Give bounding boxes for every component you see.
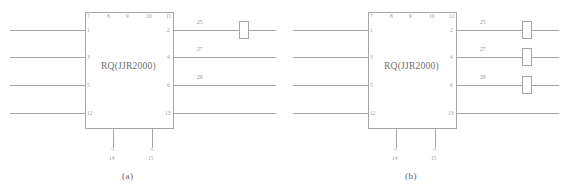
wire-label-29: 29 — [480, 75, 486, 81]
figure-root: 7 8 9 10 11 1 3 5 12 2 4 6 13 25 27 29 R… — [0, 0, 565, 191]
schematic-panel-b: 7 8 9 10 11 1 3 5 12 2 4 6 13 25 27 29 R… — [283, 0, 565, 191]
left-pin-3: 3 — [87, 55, 90, 60]
contact-box-2 — [522, 21, 531, 38]
left-pin-12: 12 — [370, 111, 375, 116]
left-pin-12: 12 — [87, 111, 92, 116]
wire-label-27: 27 — [480, 47, 486, 53]
top-pin-7: 7 — [370, 14, 373, 19]
bottom-pin-14: 14 — [109, 156, 114, 161]
bottom-mark-15: % — [433, 148, 437, 152]
wire-label-25: 25 — [480, 20, 486, 26]
contact-box-2 — [239, 21, 248, 38]
wire-label-27: 27 — [197, 47, 203, 53]
top-pin-8: 8 — [107, 14, 110, 19]
top-pin-10: 10 — [429, 14, 434, 19]
contact-box-4 — [522, 48, 531, 65]
right-pin-4: 4 — [450, 55, 453, 60]
device-block-label: RQ(JJR2000) — [101, 61, 156, 71]
wire-label-29: 29 — [197, 75, 203, 81]
right-pin-2: 2 — [450, 28, 453, 33]
panel-caption-b: (b) — [405, 172, 417, 181]
left-pin-3: 3 — [370, 55, 373, 60]
right-pin-2: 2 — [167, 28, 170, 33]
top-pin-10: 10 — [146, 14, 151, 19]
right-pin-13: 13 — [448, 111, 453, 116]
device-block-label: RQ(JJR2000) — [384, 61, 439, 71]
left-pin-1: 1 — [370, 28, 373, 33]
panel-b-drawing — [283, 0, 565, 191]
top-pin-11: 11 — [449, 14, 454, 19]
bottom-pin-14: 14 — [392, 156, 397, 161]
left-pin-5: 5 — [87, 83, 90, 88]
left-pin-1: 1 — [87, 28, 90, 33]
top-pin-9: 9 — [409, 14, 412, 19]
right-pin-6: 6 — [450, 83, 453, 88]
top-pin-11: 11 — [166, 14, 171, 19]
bottom-pin-15: 15 — [148, 156, 153, 161]
top-pin-8: 8 — [390, 14, 393, 19]
schematic-panel-a: 7 8 9 10 11 1 3 5 12 2 4 6 13 25 27 29 R… — [0, 0, 282, 191]
top-pin-7: 7 — [87, 14, 90, 19]
right-pin-6: 6 — [167, 83, 170, 88]
wire-label-25: 25 — [197, 20, 203, 26]
panel-caption-a: (a) — [122, 172, 133, 181]
right-pin-13: 13 — [165, 111, 170, 116]
top-pin-9: 9 — [126, 14, 129, 19]
bottom-pin-15: 15 — [431, 156, 436, 161]
left-pin-5: 5 — [370, 83, 373, 88]
right-pin-4: 4 — [167, 55, 170, 60]
panel-a-drawing — [0, 0, 282, 191]
bottom-mark-14: % — [394, 148, 398, 152]
contact-box-6 — [522, 76, 531, 93]
bottom-mark-15: % — [150, 148, 154, 152]
bottom-mark-14: % — [111, 148, 115, 152]
